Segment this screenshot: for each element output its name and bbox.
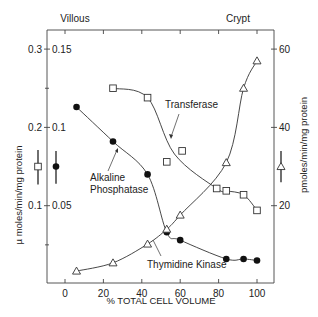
x-tick-label: 100 [249, 288, 266, 299]
y-left-inner-tick-label: 0.1 [52, 122, 66, 133]
y-right-tick-label: 60 [279, 44, 291, 55]
transferase-point [254, 207, 261, 214]
alkaline-phosphatase-point [73, 104, 80, 111]
alkaline-phosphatase-point [254, 257, 261, 264]
y-left-inner-tick-label: 0.05 [52, 200, 72, 211]
alkaline-phosphatase-label-line2: Phosphatase [90, 184, 149, 195]
villous-label: Villous [60, 13, 89, 24]
alkaline-phosphatase-label-line1: Alkaline [90, 172, 125, 183]
alkaline-phosphatase-point [110, 138, 117, 145]
y-left-outer-tick-label: 0.2 [28, 122, 42, 133]
transferase-label: Transferase [165, 99, 218, 110]
thymidine-kinase-point [109, 259, 117, 266]
thymidine-kinase-leader [153, 240, 161, 256]
error-bars [35, 150, 285, 184]
transferase-leader [171, 114, 179, 137]
y-left-outer-tick-label: 0.3 [28, 44, 42, 55]
alkaline-phosphatase-point [177, 237, 184, 244]
thymidine-kinase-point [240, 84, 248, 91]
y-right-tick-label: 40 [279, 122, 291, 133]
circle-error-bar-marker [53, 163, 60, 170]
transferase-arrowhead [169, 134, 173, 139]
series-labels: Transferase Alkaline Phosphatase Thymidi… [90, 99, 227, 270]
thymidine-kinase-point [253, 57, 261, 64]
transferase-point [179, 148, 186, 155]
crypt-label: Crypt [226, 13, 250, 24]
triangle-error-bar-marker [277, 163, 285, 170]
transferase-point [213, 185, 220, 192]
transferase-point [223, 188, 230, 195]
series-markers [73, 57, 261, 274]
enzyme-activity-chart: 0204060801000.10.050.20.10.30.15204060 V… [0, 0, 318, 317]
y-left-inner-tick-label: 0.15 [52, 44, 72, 55]
alkaline-phosphatase-leader [108, 150, 117, 171]
transferase-point [144, 94, 151, 101]
y-right-axis-title: pmoles/min/mg protein [298, 97, 309, 193]
transferase-point [110, 85, 117, 92]
transferase-point [163, 159, 170, 166]
y-right-tick-label: 20 [279, 200, 291, 211]
square-error-bar-marker [35, 163, 42, 170]
x-tick-label: 0 [62, 288, 68, 299]
y-left-axis-title: µ moles/min/mg protein [13, 146, 24, 245]
alkaline-phosphatase-point [144, 171, 151, 178]
thymidine-kinase-point [222, 159, 230, 166]
thymidine-kinase-point [144, 240, 152, 247]
plot-frame [47, 30, 274, 283]
transferase-point [240, 191, 247, 198]
thymidine-kinase-label: Thymidine Kinase [147, 259, 227, 270]
alkaline-phosphatase-point [240, 256, 247, 263]
x-axis-title: % TOTAL CELL VOLUME [106, 295, 215, 306]
axis-ticks [44, 30, 277, 283]
y-left-outer-tick-label: 0.1 [28, 200, 42, 211]
alkaline-phosphatase-arrowhead [115, 148, 118, 153]
